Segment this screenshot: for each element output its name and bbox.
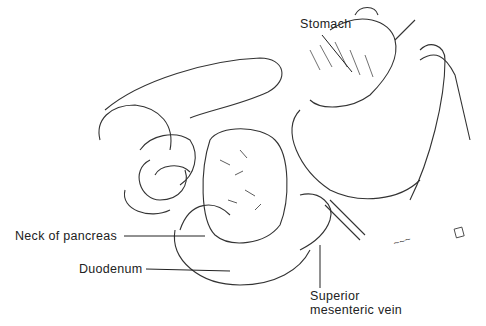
artist-signature: ~~~: [392, 233, 412, 248]
surgical-illustration: ~~~: [0, 0, 486, 326]
duodenum-leader-line: [146, 269, 230, 271]
neck-of-pancreas-label: Neck of pancreas: [15, 229, 117, 243]
signature-box: [454, 227, 464, 238]
duodenum-label: Duodenum: [79, 262, 143, 276]
pancreas-drawing: [203, 129, 287, 243]
instrument-drawing: [325, 200, 365, 240]
smv-label-line1: Superior: [310, 289, 360, 303]
stomach-label: Stomach: [300, 17, 351, 31]
stomach-leader-line: [322, 35, 352, 72]
smv-label-line2: mesenteric vein: [310, 303, 402, 317]
stomach-drawing: [292, 8, 445, 201]
hand-drawing: [99, 58, 331, 285]
